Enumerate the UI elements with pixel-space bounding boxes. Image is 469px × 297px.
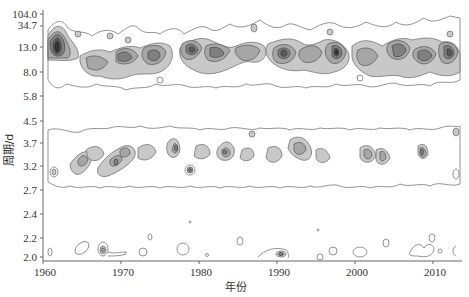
y-tick-label: 8.0 — [23, 66, 37, 78]
y-tick-label: 2.2 — [23, 232, 37, 244]
y-tick-label: 2.0 — [23, 251, 37, 263]
y-tick-label: 34.7 — [18, 19, 38, 31]
x-axis-title: 年份 — [225, 280, 247, 294]
x-tick-label: 2010 — [424, 266, 447, 278]
x-tick-label: 2000 — [346, 266, 369, 278]
y-tick-label: 2.4 — [23, 208, 37, 220]
x-tick-label: 1980 — [190, 266, 213, 278]
y-tick-label: 2.7 — [23, 184, 37, 196]
x-tick-label: 1990 — [268, 266, 291, 278]
x-tick-label: 1970 — [112, 266, 135, 278]
long-period-band — [48, 16, 460, 90]
y-tick-label: 3.7 — [23, 137, 37, 149]
mid-period-band — [48, 126, 460, 188]
y-axis-tick-labels: 104.0 34.7 13.0 8.0 5.8 4.5 3.7 3.2 2.7 … — [12, 8, 37, 263]
wavelet-contour-chart: 104.0 34.7 13.0 8.0 5.8 4.5 3.7 3.2 2.7 … — [0, 0, 469, 297]
y-tick-label: 4.5 — [23, 115, 37, 127]
x-axis-tick-labels: 1960 1970 1980 1990 2000 2010 — [34, 266, 447, 278]
y-tick-label: 3.2 — [23, 160, 37, 172]
x-tick-label: 1960 — [34, 266, 57, 278]
short-period-band — [48, 221, 456, 260]
y-axis-title: 周期/d — [3, 134, 16, 167]
y-tick-label: 13.0 — [18, 41, 38, 53]
y-tick-label: 5.8 — [23, 90, 37, 102]
